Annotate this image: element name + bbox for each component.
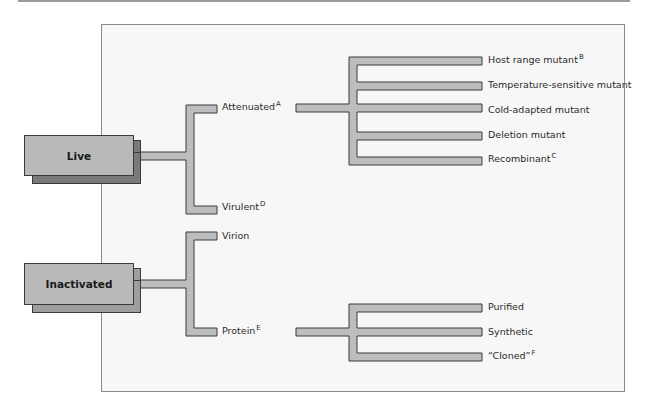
attenuated-subtree-connector	[296, 57, 482, 165]
leaf-deletion-mutant: Deletion mutant	[488, 129, 565, 141]
footnote-marker: C	[552, 152, 557, 160]
footnote-marker: F	[532, 349, 536, 357]
leaf-host-range-mutant: Host range mutantB	[488, 54, 584, 66]
live-connector	[140, 105, 217, 214]
inactivated-connector	[140, 232, 217, 336]
leaf-purified: Purified	[488, 301, 524, 313]
leaf-synthetic: Synthetic	[488, 326, 533, 338]
footnote-marker: B	[579, 53, 584, 61]
branch-attenuated: AttenuatedA	[222, 101, 281, 113]
category-inactivated-label: Inactivated	[46, 278, 113, 290]
footnote-marker: A	[276, 100, 281, 108]
branch-protein: ProteinE	[222, 325, 261, 337]
leaf-temperature-sensitive-mutant: Temperature-sensitive mutant	[488, 79, 631, 91]
footnote-marker: D	[260, 200, 265, 208]
leaf-recombinant: RecombinantC	[488, 153, 556, 165]
footnote-marker: E	[256, 324, 260, 332]
branch-virulent: VirulentD	[222, 201, 265, 213]
branch-virion: Virion	[222, 230, 249, 242]
category-inactivated: Inactivated	[24, 263, 134, 305]
protein-subtree-connector	[296, 304, 482, 361]
live-box-tab	[133, 140, 141, 153]
category-live: Live	[24, 135, 134, 176]
leaf-cloned: “Cloned”F	[488, 350, 536, 362]
category-live-label: Live	[67, 150, 91, 162]
inactivated-box-tab	[133, 268, 141, 281]
leaf-cold-adapted-mutant: Cold-adapted mutant	[488, 104, 589, 116]
